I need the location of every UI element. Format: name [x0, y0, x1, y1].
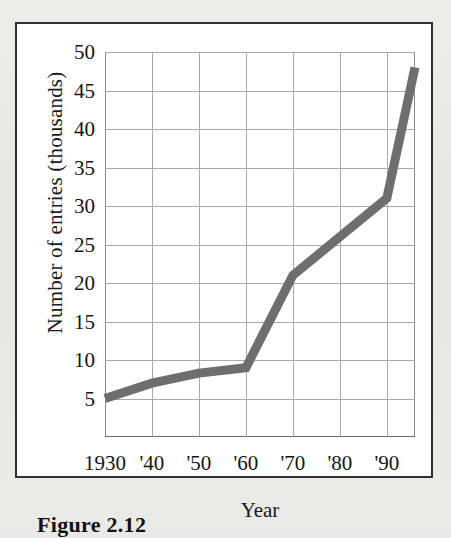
data-series-line: [105, 52, 415, 437]
y-axis-tick-label: 25: [74, 232, 95, 257]
x-axis-tick-label: '80: [327, 451, 352, 476]
figure-caption: Figure 2.12: [37, 512, 146, 538]
y-axis-tick-label: 30: [74, 194, 95, 219]
y-axis-tick-label: 15: [74, 309, 95, 334]
y-axis-tick-label: 50: [74, 40, 95, 65]
x-axis-tick-label: '40: [140, 451, 165, 476]
y-axis-tick-label: 10: [74, 348, 95, 373]
x-axis-tick-label: '70: [280, 451, 305, 476]
y-axis-tick-label: 40: [74, 117, 95, 142]
y-axis-tick-label: 5: [85, 386, 96, 411]
plot-area: 5101520253035404550 1930'40'50'60'70'80'…: [105, 52, 415, 437]
y-axis-tick-label: 20: [74, 271, 95, 296]
line-chart: Number of entries (thousands) 5101520253…: [15, 22, 433, 522]
y-axis-title: Number of entries (thousands): [43, 58, 68, 348]
x-axis-title: Year: [105, 498, 415, 523]
x-axis-tick-label: 1930: [84, 451, 126, 476]
x-axis-tick-label: '50: [187, 451, 212, 476]
x-axis-tick-label: '90: [374, 451, 399, 476]
y-axis-tick-label: 45: [74, 78, 95, 103]
x-axis-tick-label: '60: [234, 451, 259, 476]
y-axis-tick-label: 35: [74, 155, 95, 180]
